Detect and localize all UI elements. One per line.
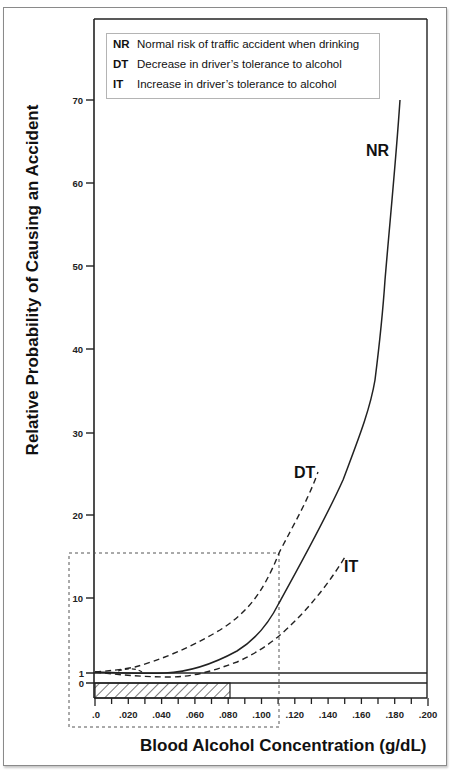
curve-label-nr: NR (366, 142, 389, 160)
svg-text:30: 30 (72, 428, 83, 439)
hatched-region (95, 683, 230, 698)
svg-text:70: 70 (72, 95, 83, 106)
svg-text:0: 0 (79, 678, 84, 689)
x-axis-ticks (95, 698, 428, 706)
legend-item-nr: NRNormal risk of traffic accident when d… (113, 38, 359, 50)
legend-text: Increase in driver’s tolerance to alcoho… (137, 78, 337, 90)
svg-text:.0: .0 (92, 709, 100, 720)
svg-text:.100: .100 (252, 709, 271, 720)
legend-item-it: ITIncrease in driver’s tolerance to alco… (113, 78, 337, 90)
svg-text:.140: .140 (319, 709, 338, 720)
legend-abbr: IT (113, 78, 137, 90)
curve-dt (95, 472, 318, 672)
svg-text:.020: .020 (119, 709, 138, 720)
svg-text:20: 20 (72, 510, 83, 521)
y-axis-title: Relative Probability of Causing an Accid… (23, 105, 43, 456)
legend-text: Normal risk of traffic accident when dri… (137, 38, 359, 50)
legend-abbr: NR (113, 38, 137, 50)
legend-text: Decrease in driver’s tolerance to alcoho… (137, 58, 342, 70)
legend-abbr: DT (113, 58, 137, 70)
chart-svg: 70 60 50 40 30 20 10 1 0 .0 .020 .040 .0… (0, 0, 455, 779)
svg-text:10: 10 (72, 593, 83, 604)
svg-text:.200: .200 (419, 709, 438, 720)
reference-lines (86, 673, 427, 683)
y-axis-labels: 70 60 50 40 30 20 10 1 0 (72, 95, 84, 689)
curve-dip-detail (118, 669, 142, 672)
svg-text:.040: .040 (152, 709, 171, 720)
curve-label-dt: DT (294, 464, 315, 482)
y-axis-ticks (86, 100, 94, 598)
svg-text:.080: .080 (219, 709, 238, 720)
curve-nr (95, 100, 400, 673)
x-axis-labels: .0 .020 .040 .060 .080 .100 .120 .140 .1… (92, 709, 437, 720)
svg-text:.120: .120 (286, 709, 305, 720)
curve-label-it: IT (344, 558, 358, 576)
svg-text:.160: .160 (352, 709, 371, 720)
svg-text:60: 60 (72, 178, 83, 189)
dashed-inset-box (69, 553, 279, 727)
svg-text:.060: .060 (186, 709, 205, 720)
svg-text:.180: .180 (385, 709, 404, 720)
svg-text:40: 40 (72, 344, 83, 355)
x-axis-title: Blood Alcohol Concentration (g/dL) (140, 736, 426, 756)
svg-text:50: 50 (72, 261, 83, 272)
legend-item-dt: DTDecrease in driver’s tolerance to alco… (113, 58, 342, 70)
legend: NRNormal risk of traffic accident when d… (106, 33, 380, 99)
